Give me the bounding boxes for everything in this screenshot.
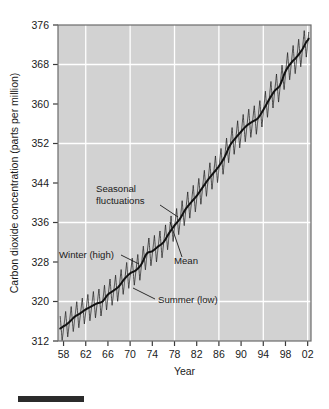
annotation-seasonal-fluctuations-label-line1: Seasonal (96, 183, 136, 194)
x-axis-tick-label-1978: 78 (169, 348, 181, 360)
x-axis-title: Year (174, 365, 196, 377)
x-axis-tick-label-1990: 90 (235, 348, 247, 360)
x-axis-tick-label-1994: 94 (257, 348, 269, 360)
y-axis-tick-label-368: 368 (31, 58, 49, 70)
x-axis-tick-label-1986: 86 (213, 348, 225, 360)
y-axis-tick-label-320: 320 (31, 295, 49, 307)
x-axis-tick-label-1982: 82 (191, 348, 203, 360)
y-axis-tick-label-352: 352 (31, 137, 49, 149)
y-axis-tick-label-312: 312 (31, 335, 49, 347)
chart-canvas: 3123203283363443523603683765862667074788… (0, 0, 329, 409)
x-axis-tick-label-1958: 58 (58, 348, 70, 360)
x-axis-tick-label-1970: 70 (124, 348, 136, 360)
y-axis-tick-label-360: 360 (31, 98, 49, 110)
x-axis-tick-label-2002: 02 (302, 348, 314, 360)
y-axis-tick-label-328: 328 (31, 256, 49, 268)
annotation-summer-low-label: Summer (low) (158, 294, 218, 305)
annotation-winter-high-label: Winter (high) (59, 249, 114, 260)
caption-rule (18, 396, 84, 402)
y-axis-tick-label-336: 336 (31, 216, 49, 228)
x-axis-tick-label-1962: 62 (80, 348, 92, 360)
co2-keeling-curve-figure: 3123203283363443523603683765862667074788… (0, 0, 329, 409)
y-axis-tick-label-376: 376 (31, 19, 49, 31)
annotation-mean-label: Mean (174, 255, 198, 266)
x-axis-tick-label-1974: 74 (146, 348, 158, 360)
annotation-seasonal-fluctuations-label-line2: fluctuations (96, 195, 145, 206)
y-axis-title: Carbon dioxide concentration (parts per … (8, 73, 20, 294)
y-axis-tick-label-344: 344 (31, 177, 49, 189)
x-axis-tick-label-1966: 66 (102, 348, 114, 360)
x-axis-tick-label-1998: 98 (280, 348, 292, 360)
